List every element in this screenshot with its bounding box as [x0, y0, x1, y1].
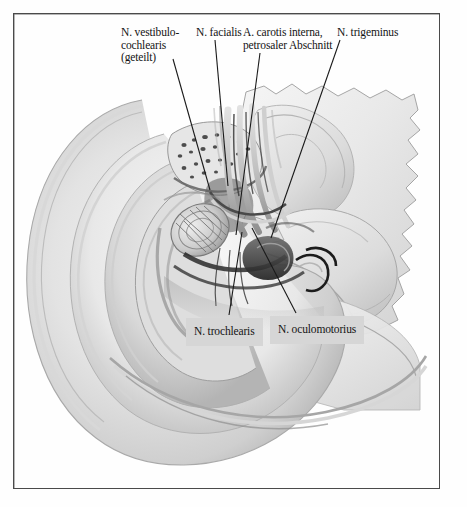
- figure-frame: [13, 13, 440, 489]
- label-n-trochlearis: N. trochlearis: [186, 318, 263, 346]
- label-n-oculomotorius: N. oculomotorius: [270, 316, 364, 344]
- label-a-carotis-interna: A. carotis interna, petrosaler Abschnitt: [243, 26, 332, 51]
- label-n-trigeminus: N. trigeminus: [337, 26, 398, 39]
- label-n-vestibulocochlearis: N. vestibulo- cochlearis (geteilt): [121, 26, 179, 64]
- label-n-facialis: N. facialis: [196, 26, 242, 39]
- figure-root: N. vestibulo- cochlearis (geteilt) N. fa…: [0, 0, 467, 507]
